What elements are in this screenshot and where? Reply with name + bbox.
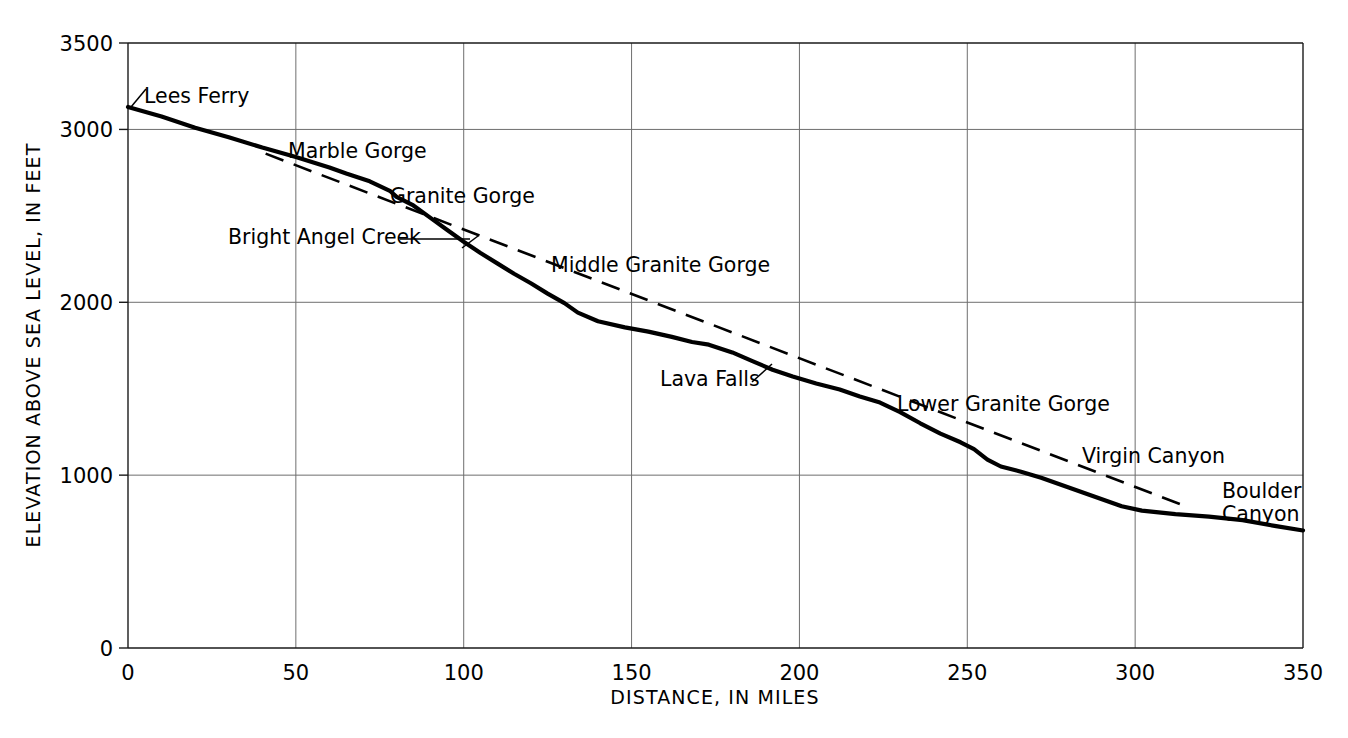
annotation-boulder-canyon: BoulderCanyon <box>1222 479 1302 526</box>
annotation-label: Bright Angel Creek <box>228 225 421 249</box>
annotation-label: Lees Ferry <box>144 84 249 108</box>
annotation-label: Lower Granite Gorge <box>897 392 1110 416</box>
x-tick-label: 350 <box>1283 661 1323 685</box>
annotation-granite-gorge: Granite Gorge <box>390 184 535 208</box>
x-tick-label: 150 <box>612 661 652 685</box>
annotation-label-line2: Canyon <box>1222 502 1300 526</box>
annotation-label: Marble Gorge <box>288 139 427 163</box>
annotation-lower-granite-gorge: Lower Granite Gorge <box>897 392 1110 416</box>
y-tick-label: 1000 <box>60 464 113 488</box>
x-tick-label: 50 <box>282 661 309 685</box>
annotation-label: Virgin Canyon <box>1082 444 1225 468</box>
chart-container: 01000200030003500050100150200250300350 L… <box>0 0 1348 738</box>
annotation-label: Boulder <box>1222 479 1302 503</box>
x-tick-label: 100 <box>444 661 484 685</box>
x-tick-label: 250 <box>947 661 987 685</box>
river-profile-chart: 01000200030003500050100150200250300350 L… <box>0 0 1348 738</box>
annotation-middle-granite-gorge: Middle Granite Gorge <box>551 253 770 277</box>
annotation-lees-ferry: Lees Ferry <box>131 84 249 108</box>
x-axis-title: DISTANCE, IN MILES <box>610 686 819 708</box>
x-tick-label: 300 <box>1115 661 1155 685</box>
y-axis-title: ELEVATION ABOVE SEA LEVEL, IN FEET <box>22 143 44 548</box>
annotation-lava-falls: Lava Falls <box>660 364 772 391</box>
y-tick-label: 2000 <box>60 291 113 315</box>
annotation-label: Middle Granite Gorge <box>551 253 770 277</box>
y-tick-label: 0 <box>100 637 113 661</box>
annotation-marble-gorge: Marble Gorge <box>288 139 427 163</box>
y-tick-label: 3000 <box>60 118 113 142</box>
x-tick-label: 0 <box>121 661 134 685</box>
x-tick-label: 200 <box>779 661 819 685</box>
annotation-label: Lava Falls <box>660 367 760 391</box>
annotation-virgin-canyon: Virgin Canyon <box>1082 444 1225 468</box>
annotation-label: Granite Gorge <box>390 184 535 208</box>
y-tick-label: 3500 <box>60 32 113 56</box>
